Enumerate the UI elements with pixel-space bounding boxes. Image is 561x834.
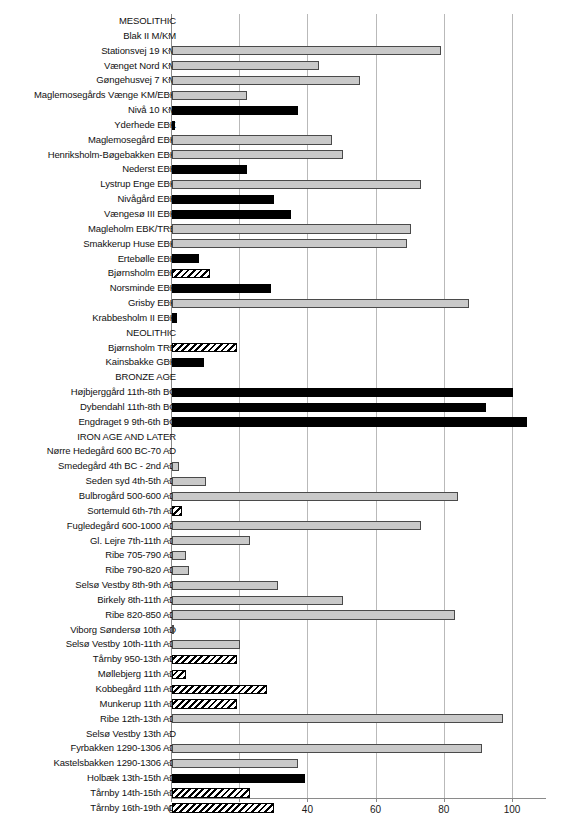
row-label: Lystrup Enge EBK bbox=[100, 177, 176, 192]
chart-row: Højbjerggård 11th-8th BC bbox=[0, 385, 561, 400]
row-label: Vænget Nord KM bbox=[104, 59, 176, 74]
row-label: Kastelsbakken 1290-1306 AD bbox=[53, 756, 176, 771]
y-tick bbox=[168, 480, 171, 481]
chart-row: Holbæk 13th-15th AD bbox=[0, 771, 561, 786]
y-tick bbox=[168, 302, 171, 303]
row-label: Holbæk 13th-15th AD bbox=[87, 771, 176, 786]
y-tick bbox=[168, 673, 171, 674]
y-tick bbox=[168, 450, 171, 451]
y-tick bbox=[168, 792, 171, 793]
chart-row: Seden syd 4th-5th AD bbox=[0, 474, 561, 489]
y-tick bbox=[168, 243, 171, 244]
y-tick bbox=[168, 376, 171, 377]
horizontal-bar-chart: 020406080100 MESOLITHICBlak II M/KMStati… bbox=[0, 0, 561, 834]
y-tick bbox=[168, 124, 171, 125]
chart-row: Fugledegård 600-1000 AD bbox=[0, 519, 561, 534]
row-label: Ertebølle EBK bbox=[118, 252, 176, 267]
chart-row: Henriksholm-Bøgebakken EBK bbox=[0, 148, 561, 163]
chart-row: Kobbegård 11th AD bbox=[0, 682, 561, 697]
y-tick bbox=[168, 436, 171, 437]
chart-row: Krabbesholm II EBK bbox=[0, 311, 561, 326]
row-label: Ribe 705-790 AD bbox=[105, 548, 176, 563]
chart-row: Munkerup 11th AD bbox=[0, 697, 561, 712]
row-label: Selsø Vestby 13th AD bbox=[86, 727, 176, 742]
bar bbox=[172, 506, 182, 515]
chart-row: Ertebølle EBK bbox=[0, 252, 561, 267]
y-tick bbox=[168, 554, 171, 555]
bar bbox=[172, 699, 237, 708]
chart-row: Tårnby 16th-19th AD bbox=[0, 801, 561, 816]
y-tick bbox=[168, 258, 171, 259]
y-tick bbox=[168, 154, 171, 155]
y-tick bbox=[168, 65, 171, 66]
bar bbox=[172, 744, 482, 753]
bar bbox=[172, 581, 278, 590]
y-tick bbox=[168, 599, 171, 600]
row-label: Fugledegård 600-1000 AD bbox=[67, 519, 176, 534]
y-tick bbox=[168, 347, 171, 348]
chart-row: BRONZE AGE bbox=[0, 370, 561, 385]
chart-row: Ribe 705-790 AD bbox=[0, 548, 561, 563]
row-label: Munkerup 11th AD bbox=[100, 697, 176, 712]
row-label: Maglemosegård EBK bbox=[88, 133, 176, 148]
bar bbox=[172, 492, 458, 501]
bar bbox=[172, 803, 274, 812]
row-label: Seden syd 4th-5th AD bbox=[86, 474, 176, 489]
y-tick bbox=[168, 287, 171, 288]
chart-row: Bjørnsholm TRB bbox=[0, 341, 561, 356]
row-label: Viborg Søndersø 10th AD bbox=[70, 623, 176, 638]
chart-row: Yderhede EBK bbox=[0, 118, 561, 133]
bar bbox=[172, 180, 421, 189]
y-tick bbox=[168, 35, 171, 36]
chart-row: Maglemosegård EBK bbox=[0, 133, 561, 148]
bar bbox=[172, 685, 267, 694]
y-tick bbox=[168, 569, 171, 570]
chart-row: Maglemosegårds Vænge KM/EBK bbox=[0, 88, 561, 103]
chart-row: Sortemuld 6th-7th AD bbox=[0, 504, 561, 519]
row-label: Norsminde EBK bbox=[110, 281, 176, 296]
row-label: Ribe 12th-13th AD bbox=[100, 712, 176, 727]
bar bbox=[172, 210, 291, 219]
row-label: Nørre Hedegård 600 BC-70 AD bbox=[47, 444, 176, 459]
bar bbox=[172, 46, 441, 55]
chart-row: NEOLITHIC bbox=[0, 326, 561, 341]
bar bbox=[172, 269, 210, 278]
chart-row: Fyrbakken 1290-1306 AD bbox=[0, 741, 561, 756]
y-tick bbox=[168, 688, 171, 689]
chart-row: Engdraget 9 9th-6th BC bbox=[0, 415, 561, 430]
bar bbox=[172, 106, 298, 115]
y-tick bbox=[168, 807, 171, 808]
bar bbox=[172, 417, 527, 426]
row-label: Bjørnsholm EBK bbox=[108, 266, 176, 281]
chart-row: Norsminde EBK bbox=[0, 281, 561, 296]
y-tick bbox=[168, 198, 171, 199]
chart-row: Smedegård 4th BC - 2nd AD bbox=[0, 459, 561, 474]
row-label: Gøngehusvej 7 KM bbox=[96, 73, 176, 88]
row-label: Birkely 8th-11th AD bbox=[97, 593, 176, 608]
bar bbox=[172, 239, 407, 248]
row-label: Kainsbakke GBK bbox=[106, 355, 176, 370]
chart-row: Smakkerup Huse EBK bbox=[0, 237, 561, 252]
chart-row: Nivå 10 KM bbox=[0, 103, 561, 118]
y-tick bbox=[168, 718, 171, 719]
row-label: Selsø Vestby 10th-11th AD bbox=[66, 637, 176, 652]
row-label: Ribe 790-820 AD bbox=[105, 563, 176, 578]
chart-row: Blak II M/KM bbox=[0, 29, 561, 44]
y-tick bbox=[168, 272, 171, 273]
y-tick bbox=[168, 614, 171, 615]
bar bbox=[172, 76, 360, 85]
y-tick bbox=[168, 228, 171, 229]
chart-row: Nederst EBK bbox=[0, 162, 561, 177]
y-tick bbox=[168, 79, 171, 80]
row-label: Smakkerup Huse EBK bbox=[83, 237, 176, 252]
row-label: Møllebjerg 11th AD bbox=[98, 667, 176, 682]
y-tick bbox=[168, 183, 171, 184]
row-label: Højbjerggård 11th-8th BC bbox=[71, 385, 176, 400]
bar bbox=[172, 477, 206, 486]
row-label: Kobbegård 11th AD bbox=[95, 682, 176, 697]
bar bbox=[172, 284, 271, 293]
row-label: Nederst EBK bbox=[122, 162, 176, 177]
bar bbox=[172, 536, 250, 545]
y-tick bbox=[168, 465, 171, 466]
y-tick bbox=[168, 332, 171, 333]
